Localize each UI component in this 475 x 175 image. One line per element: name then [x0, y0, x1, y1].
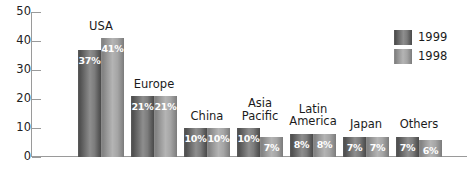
bar-value-label: 10% [184, 133, 207, 144]
y-axis-tick-label-text: 40 [5, 35, 31, 46]
bar[interactable]: 10% [207, 128, 230, 157]
category-label: Europe [114, 78, 194, 91]
y-axis-tick-label-text: 10 [5, 122, 31, 133]
bar[interactable]: 37% [78, 50, 101, 157]
bar[interactable]: 8% [313, 134, 336, 157]
y-axis-tick-label: 0 [0, 151, 31, 162]
bar-value-label: 10% [207, 133, 230, 144]
bar-value-label: 10% [237, 133, 260, 144]
bar[interactable]: 41% [101, 38, 124, 157]
bar[interactable]: 6% [419, 140, 442, 157]
bar-value-label: 8% [290, 139, 313, 150]
y-axis-tick-label: 30 [0, 64, 31, 75]
bar-value-label: 37% [78, 55, 101, 66]
bar-value-label: 7% [396, 142, 419, 153]
legend-label: 1999 [418, 31, 447, 43]
y-axis-tick-label-text: 30 [5, 64, 31, 75]
legend-swatch [394, 49, 412, 64]
bar[interactable]: 21% [154, 96, 177, 157]
legend-label: 1998 [418, 50, 447, 62]
bar[interactable]: 7% [366, 137, 389, 157]
bar[interactable]: 10% [184, 128, 207, 157]
bar-value-label: 7% [343, 142, 366, 153]
y-axis-tick-label-text: 0 [5, 151, 31, 162]
y-axis-tick-label: 10 [0, 122, 31, 133]
legend-swatch [394, 30, 412, 45]
y-axis-tick-label-text: 20 [5, 93, 31, 104]
bar[interactable]: 8% [290, 134, 313, 157]
y-axis-tick-label: 20 [0, 93, 31, 104]
bar-value-label: 6% [419, 145, 442, 156]
bar-value-label: 7% [260, 142, 283, 153]
bar-value-label: 41% [101, 43, 124, 54]
bar[interactable]: 7% [343, 137, 366, 157]
bar[interactable]: 7% [260, 137, 283, 157]
bar[interactable]: 10% [237, 128, 260, 157]
category-label: Others [379, 118, 459, 131]
category-label: USA [61, 20, 141, 33]
bar-value-label: 7% [366, 142, 389, 153]
y-axis-tick-label: 50 [0, 6, 31, 17]
y-axis-tick-label: 40 [0, 35, 31, 46]
bar[interactable]: 21% [131, 96, 154, 157]
bar[interactable]: 7% [396, 137, 419, 157]
y-axis-tick-label-text: 50 [5, 6, 31, 17]
bar-value-label: 8% [313, 139, 336, 150]
bar-chart: 01020304050 37%41%21%21%10%10%10%7%8%8%7… [0, 0, 475, 175]
y-axis-tick [32, 157, 41, 158]
bar-value-label: 21% [131, 101, 154, 112]
